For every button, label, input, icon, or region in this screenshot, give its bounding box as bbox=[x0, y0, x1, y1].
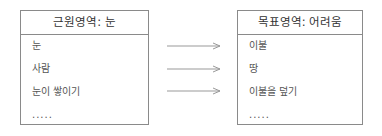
target-domain-title: 목표영역: 어려움 bbox=[238, 11, 362, 35]
source-item-ellipsis: ..... bbox=[32, 109, 53, 121]
target-item: 이불을 덮기 bbox=[249, 86, 297, 98]
source-domain-title: 근원영역: 눈 bbox=[21, 11, 148, 35]
source-item: 눈 bbox=[32, 40, 41, 52]
source-item: 사람 bbox=[32, 63, 50, 75]
source-domain-box: 근원영역: 눈 눈 사람 눈이 쌓이기 ..... bbox=[20, 10, 149, 125]
mapping-arrow-icon bbox=[167, 41, 221, 51]
mapping-arrow-icon bbox=[167, 86, 221, 96]
target-domain-box: 목표영역: 어려움 이불 땅 이불을 덮기 ..... bbox=[237, 10, 363, 125]
mapping-arrow-icon bbox=[167, 64, 221, 74]
target-item-ellipsis: ..... bbox=[249, 109, 270, 121]
source-item: 눈이 쌓이기 bbox=[32, 86, 80, 98]
target-item: 이불 bbox=[249, 40, 267, 52]
target-item: 땅 bbox=[249, 63, 258, 75]
